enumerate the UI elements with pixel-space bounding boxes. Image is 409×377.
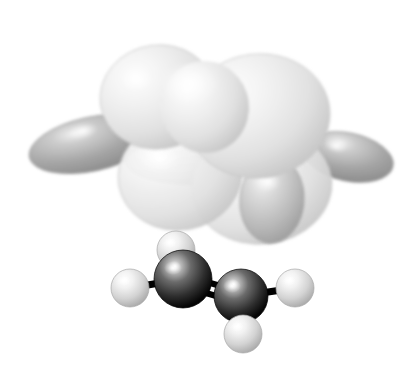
lobe-upper-left-highlight [121,68,153,92]
hydrogen-sphere [224,315,262,353]
atom-H3 [276,269,314,307]
atom-H4 [224,315,262,353]
molecular-orbital-figure: Ethylene (C2H4) shown as a ball-and-stic… [0,0,409,377]
hydrogen-sphere [276,269,314,307]
hydrogen-highlight [163,238,177,248]
atom-C1 [154,250,212,308]
carbon-highlight [164,261,182,275]
molecule-canvas [0,0,409,377]
hydrogen-highlight [230,322,244,332]
atom-H1 [111,269,149,307]
carbon-sphere [154,250,212,308]
hydrogen-sphere [111,269,149,307]
hydrogen-highlight [282,276,296,286]
lobe-upper-highlight [160,61,220,105]
hydrogen-highlight [117,276,131,286]
carbon-highlight [223,279,241,293]
